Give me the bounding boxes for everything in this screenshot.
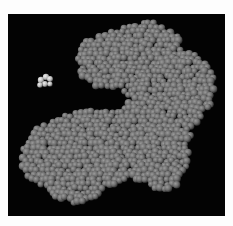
protein-space-filling-model xyxy=(0,0,233,226)
atom-sphere xyxy=(158,86,164,92)
atom-sphere xyxy=(79,197,86,204)
atom-sphere xyxy=(205,104,212,111)
ligand-atom xyxy=(47,81,52,86)
ligand-atom xyxy=(47,76,53,82)
ligand-atom xyxy=(37,82,43,88)
atom-sphere xyxy=(164,184,172,192)
atom-sphere xyxy=(118,82,125,89)
ligand-atom xyxy=(42,81,48,87)
atom-sphere xyxy=(92,193,98,199)
atom-sphere xyxy=(121,55,128,62)
atom-sphere xyxy=(173,181,180,188)
atom-sphere xyxy=(110,180,117,187)
atom-sphere xyxy=(186,59,193,66)
atom-sphere xyxy=(124,77,130,83)
ligand-molecule xyxy=(37,74,53,88)
atom-sphere xyxy=(38,181,44,187)
atom-sphere xyxy=(77,162,83,168)
atom-sphere xyxy=(121,175,127,181)
atom-sphere xyxy=(142,176,149,183)
protein-atoms xyxy=(19,20,218,206)
atom-sphere xyxy=(61,193,68,200)
atom-sphere xyxy=(56,161,64,169)
atom-sphere xyxy=(193,118,201,126)
atom-sphere xyxy=(131,117,138,124)
atom-sphere xyxy=(98,82,105,89)
